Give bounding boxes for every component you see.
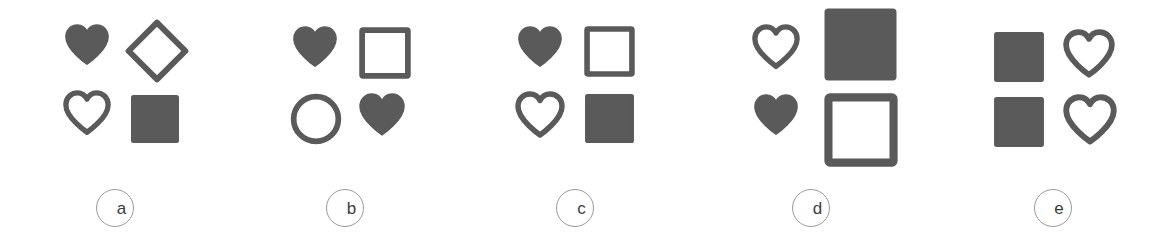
panel-label-wrap: d: [690, 189, 932, 227]
square-outline-icon: [584, 26, 635, 77]
shape-cell-circle-outline: [290, 93, 342, 145]
heart-filled-icon: [291, 24, 339, 72]
shape-cell-heart-filled: [291, 24, 339, 72]
panel-label-wrap: c: [460, 189, 690, 227]
shape-cell-square-filled-large: [823, 7, 898, 82]
square-filled-icon: [584, 93, 635, 144]
shape-grid: [932, 0, 1173, 175]
heart-outline-icon: [1063, 94, 1117, 148]
shape-grid: [230, 0, 460, 175]
shape-cell-heart-filled-2: [357, 91, 407, 141]
panel-label-circle: c: [556, 189, 594, 227]
square-filled-icon: [993, 96, 1045, 148]
shape-cell-heart-outline: [1063, 29, 1115, 81]
shape-cell-square-outline-large: [824, 93, 898, 167]
diamond-outline-icon: [124, 18, 190, 84]
panel-label-circle: e: [1034, 189, 1072, 227]
panel-c: c: [460, 0, 690, 241]
heart-outline-icon: [752, 24, 800, 72]
heart-filled-icon: [516, 24, 564, 72]
shape-cell-heart-filled: [63, 22, 111, 70]
shape-cell-heart-outline: [752, 24, 800, 72]
panel-label-text: c: [557, 190, 593, 226]
shape-cell-heart-outline-2: [1063, 94, 1117, 148]
shape-cell-square-filled: [993, 31, 1045, 83]
panel-e: e: [932, 0, 1173, 241]
shape-cell-square-filled: [130, 94, 180, 144]
heart-filled-icon: [357, 91, 407, 141]
panel-label-wrap: b: [230, 189, 460, 227]
panel-label-circle: d: [792, 189, 830, 227]
shape-cell-square-outline: [359, 27, 411, 79]
panel-label-wrap: e: [932, 189, 1173, 227]
panel-label-text: e: [1035, 190, 1071, 226]
shape-cell-square-filled: [584, 93, 635, 144]
square-outline-icon: [824, 93, 898, 167]
panel-b: b: [230, 0, 460, 241]
shape-cell-diamond-outline: [124, 18, 190, 84]
panel-label-wrap: a: [0, 189, 230, 227]
heart-outline-icon: [1063, 29, 1115, 81]
shape-cell-square-outline: [584, 26, 635, 77]
panel-d: d: [690, 0, 932, 241]
shape-cell-heart-filled: [516, 24, 564, 72]
square-filled-icon: [823, 7, 898, 82]
shape-grid: [690, 0, 932, 175]
circle-outline-icon: [290, 93, 342, 145]
shape-grid: [0, 0, 230, 175]
heart-outline-icon: [515, 91, 565, 141]
shape-cell-heart-filled: [752, 92, 800, 140]
panel-label-text: d: [793, 190, 829, 226]
heart-outline-icon: [63, 90, 111, 138]
shape-grid: [460, 0, 690, 175]
square-filled-icon: [130, 94, 180, 144]
shape-cell-heart-outline: [63, 90, 111, 138]
panel-label-text: b: [327, 190, 363, 226]
shape-matrix-figure: abcde: [0, 0, 1173, 241]
square-outline-icon: [359, 27, 411, 79]
square-filled-icon: [993, 31, 1045, 83]
panel-label-circle: b: [326, 189, 364, 227]
panel-label-text: a: [97, 190, 133, 226]
shape-cell-heart-outline: [515, 91, 565, 141]
heart-filled-icon: [752, 92, 800, 140]
heart-filled-icon: [63, 22, 111, 70]
shape-cell-square-filled-2: [993, 96, 1045, 148]
panel-a: a: [0, 0, 230, 241]
panel-label-circle: a: [96, 189, 134, 227]
